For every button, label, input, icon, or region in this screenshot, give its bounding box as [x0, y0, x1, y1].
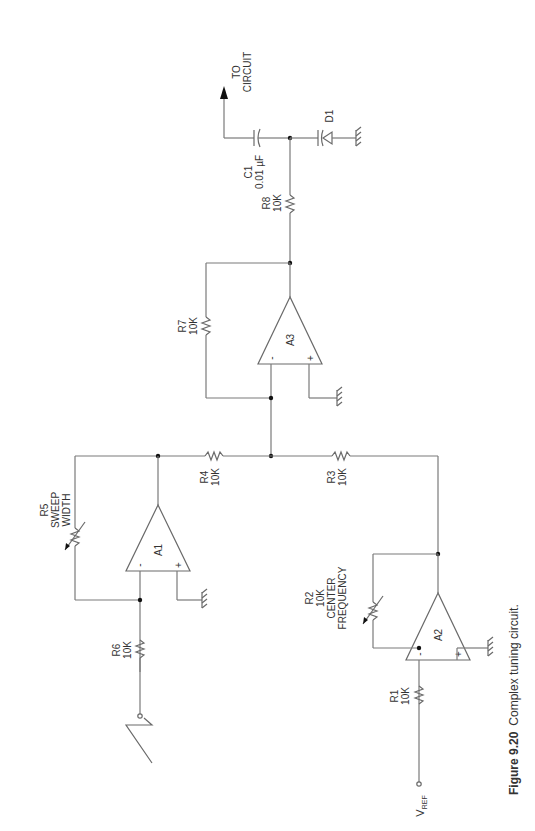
ground-icon	[337, 387, 342, 406]
a3-ref: A3	[285, 333, 296, 346]
figure-caption: Figure 9.20Complex tuning circuit.	[507, 604, 521, 795]
capacitor-c1	[254, 129, 290, 147]
d1-ref: D1	[324, 109, 335, 122]
r8-ref: R8	[261, 196, 272, 209]
r1-value: 10K	[400, 687, 411, 705]
r2-ref: R2	[304, 591, 315, 604]
vref-terminal	[417, 782, 421, 786]
resistor-r8	[286, 195, 294, 213]
svg-text:+: +	[453, 651, 464, 657]
r6-ref: R6	[111, 643, 122, 656]
opamp-a1	[126, 505, 190, 571]
r2-label-frequency: FREQUENCY	[337, 566, 348, 629]
c1-value: 0.01 µF	[254, 155, 265, 189]
r7-value: 10K	[188, 317, 199, 335]
r2-value: 10K	[315, 589, 326, 607]
r7-ref: R7	[177, 319, 188, 332]
to-label: TO	[231, 65, 242, 79]
svg-text:+: +	[173, 562, 184, 568]
opamp-a3	[258, 297, 322, 364]
r4-ref: R4	[199, 470, 210, 483]
r8-value: 10K	[272, 194, 283, 212]
r3-value: 10K	[337, 468, 348, 486]
r3-ref: R3	[326, 470, 337, 483]
svg-text:-: -	[134, 563, 145, 566]
a1-ref: A1	[153, 543, 164, 556]
svg-text:-: -	[414, 652, 425, 655]
r5-ref: R5	[39, 503, 50, 516]
r2-label-center: CENTER	[326, 577, 337, 618]
resistor-r3	[332, 452, 350, 460]
diode-d1	[290, 130, 356, 146]
ground-icon	[202, 589, 207, 608]
input-terminal	[138, 714, 142, 718]
output-arrow	[220, 86, 228, 138]
opamp-a2	[406, 593, 470, 660]
resistor-r4	[205, 452, 223, 460]
circuit-label: CIRCUIT	[242, 52, 253, 93]
resistor-r7	[202, 317, 210, 335]
ground-icon	[356, 127, 361, 146]
svg-text:+: +	[305, 355, 316, 361]
r5-label-sweep: SWEEP	[50, 492, 61, 528]
r6-value: 10K	[122, 641, 133, 659]
ground-icon	[488, 637, 493, 656]
tuning-circuit-schematic: TO CIRCUIT C1 0.01 µF D1 R8 10K	[0, 0, 535, 831]
svg-text:-: -	[266, 356, 277, 359]
a2-ref: A2	[433, 628, 444, 641]
r4-value: 10K	[210, 468, 221, 486]
r5-label-width: WIDTH	[61, 494, 72, 527]
c1-ref: C1	[243, 165, 254, 178]
sweep-input-waveform-icon	[126, 718, 152, 763]
vref-label: VREF	[414, 795, 428, 816]
r1-ref: R1	[389, 689, 400, 702]
